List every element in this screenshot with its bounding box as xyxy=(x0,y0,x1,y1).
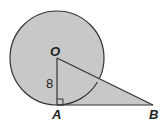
label-b: B xyxy=(149,107,158,122)
label-a: A xyxy=(51,107,61,122)
geometry-diagram: O 8 A B xyxy=(0,0,163,122)
label-radius-length: 8 xyxy=(46,76,53,91)
label-o: O xyxy=(50,44,60,59)
